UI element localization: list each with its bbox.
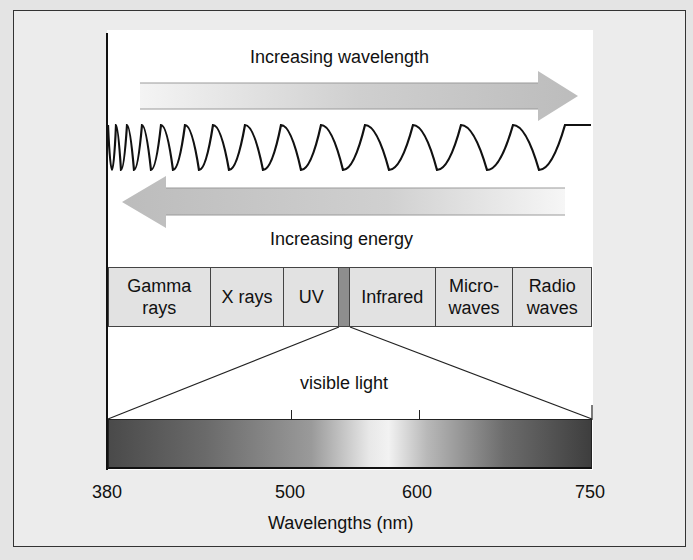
tick-label-600: 600 xyxy=(402,482,432,503)
band-label: X rays xyxy=(221,286,272,308)
increasing-wavelength-label: Increasing wavelength xyxy=(250,47,429,68)
visible-light-label: visible light xyxy=(300,373,388,394)
x-axis-title: Wavelengths (nm) xyxy=(268,513,413,534)
band-radio-waves: Radiowaves xyxy=(513,268,591,326)
tick-label-750: 750 xyxy=(575,482,605,503)
band-label: Micro- xyxy=(449,276,499,296)
band-gamma-rays: Gammarays xyxy=(109,268,211,326)
band-microwaves: Micro-waves xyxy=(436,268,514,326)
band-label: rays xyxy=(142,298,176,318)
band-label: UV xyxy=(299,286,324,308)
band-visible-strip xyxy=(339,268,350,326)
band-label: Infrared xyxy=(361,286,423,308)
visible-spectrum-bar xyxy=(108,419,592,469)
tick-label-380: 380 xyxy=(92,482,122,503)
band-label: waves xyxy=(527,298,578,318)
band-label: waves xyxy=(448,298,499,318)
wave-icon xyxy=(108,125,591,170)
vertical-axis-line xyxy=(106,33,108,470)
em-spectrum-bands: Gammarays X rays UV Infrared Micro-waves… xyxy=(108,267,592,327)
increasing-energy-label: Increasing energy xyxy=(270,229,413,250)
band-uv: UV xyxy=(284,268,339,326)
tick-label-500: 500 xyxy=(275,482,305,503)
wavelength-arrow xyxy=(140,71,578,121)
band-label: Radio xyxy=(529,276,576,296)
band-infrared: Infrared xyxy=(350,268,436,326)
band-label: Gamma xyxy=(127,276,191,296)
band-x-rays: X rays xyxy=(211,268,285,326)
energy-arrow xyxy=(122,176,565,228)
